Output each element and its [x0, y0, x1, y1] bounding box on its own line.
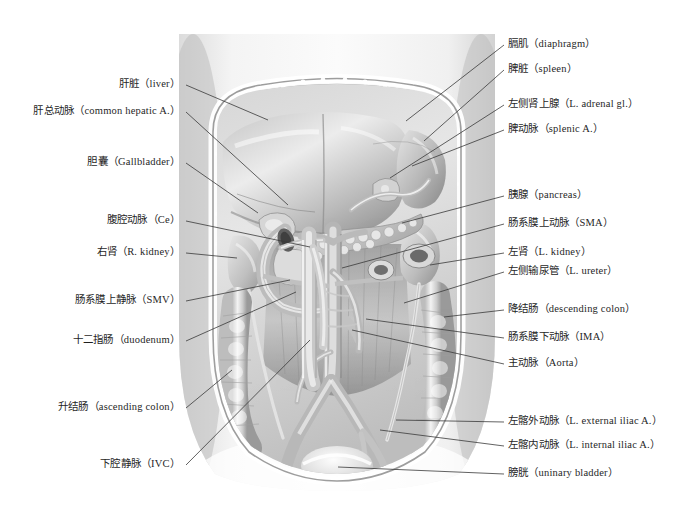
label-ascending-colon: 升结肠（ascending colon） [58, 401, 180, 413]
label-bladder: 膀胱（uninary bladder） [508, 467, 618, 479]
label-left-internal-iliac-artery: 左髂内动脉（L. internal iliac A.） [508, 439, 660, 451]
label-smv: 肠系膜上静脉（SMV） [75, 294, 180, 306]
label-diaphragm: 膈肌（diaphragm） [508, 38, 596, 50]
label-right-kidney: 右肾（R. kidney） [97, 246, 180, 258]
label-liver: 肝脏（liver） [119, 78, 180, 90]
anatomy-figure: 肝脏（liver） 肝总动脉（common hepatic A.） 胆囊（Gal… [0, 0, 674, 515]
label-duodenum: 十二指肠（duodenum） [73, 334, 180, 346]
label-splenic-artery: 脾动脉（splenic A.） [508, 123, 603, 135]
label-spleen: 脾脏（spleen） [508, 63, 577, 75]
label-left-external-iliac-artery: 左髂外动脉（L. external iliac A.） [508, 415, 662, 427]
label-left-ureter: 左侧输尿管（L. ureter） [508, 265, 617, 277]
label-gallbladder: 胆囊（Gallbladder） [87, 156, 180, 168]
label-left-adrenal-gland: 左侧肾上腺（L. adrenal gl.） [508, 98, 638, 110]
label-ivc: 下腔静脉（IVC） [100, 458, 180, 470]
label-pancreas: 胰腺（pancreas） [508, 189, 587, 201]
label-descending-colon: 降结肠（descending colon） [508, 303, 635, 315]
label-ima: 肠系膜下动脉（IMA） [508, 331, 611, 343]
label-left-kidney: 左肾（L. kidney） [508, 246, 591, 258]
label-aorta: 主动脉（Aorta） [508, 357, 584, 369]
label-sma: 肠系膜上动脉（SMA） [508, 217, 613, 229]
label-common-hepatic-artery: 肝总动脉（common hepatic A.） [33, 105, 180, 117]
label-celiac-artery: 腹腔动脉（Ce） [107, 214, 180, 226]
abdominal-anatomy-illustration [173, 34, 501, 491]
